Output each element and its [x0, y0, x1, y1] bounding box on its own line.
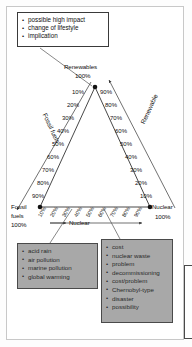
left-tick: 10%	[72, 89, 84, 96]
right-tick: 70%	[110, 115, 122, 122]
bottom-right-value: 100%	[155, 213, 170, 220]
drawback-item-cont: cost/problem	[106, 277, 169, 286]
apex-label: Renewables	[64, 63, 97, 70]
drawback-item: acid rain	[22, 247, 94, 256]
bottom-right-label: Nuclear	[152, 203, 173, 210]
drawback-item: air pollution	[22, 256, 94, 265]
callout-item: change of lifestyle	[22, 24, 104, 32]
apex-value: 100%	[75, 72, 90, 79]
diagram-page: possible high impact change of lifestyle…	[0, 0, 192, 347]
drawback-item-cont: possibility	[106, 303, 169, 312]
right-tick: 80%	[105, 102, 117, 109]
left-tick: 40%	[57, 128, 69, 135]
drawback-item: marine pollution	[22, 264, 94, 273]
bottom-left-label-1: Fossil	[11, 203, 27, 210]
left-tick: 80%	[37, 180, 49, 187]
drawback-item: nuclear waste	[106, 252, 169, 261]
right-tick: 20%	[135, 180, 147, 187]
nuclear-axis-label: Nuclear	[69, 219, 90, 226]
bottom-left-label-2: fuels	[11, 212, 24, 219]
drawback-item: cost	[106, 243, 169, 252]
callout-item: possible high impact	[22, 16, 104, 24]
left-tick: 60%	[47, 154, 59, 161]
partial-box-right-edge	[184, 265, 192, 339]
drawback-item-cont: disaster	[106, 295, 169, 304]
right-tick: 40%	[125, 154, 137, 161]
right-tick: 90%	[100, 89, 112, 96]
drawback-item-cont: problem	[106, 260, 169, 269]
left-tick: 30%	[62, 115, 74, 122]
nuclear-drawbacks-box: cost nuclear waste problem decommissioni…	[101, 239, 173, 323]
bottom-left-value: 100%	[11, 221, 26, 228]
right-tick: 60%	[115, 128, 127, 135]
left-tick: 90%	[32, 193, 44, 200]
drawback-item: global warming	[22, 273, 94, 282]
left-tick: 20%	[67, 102, 79, 109]
drawback-item: Chernobyl-type	[106, 286, 169, 295]
callout-item-cont: implication	[22, 32, 104, 40]
left-tick: 70%	[42, 167, 54, 174]
fossil-fuels-drawbacks-box: acid rain air pollution marine pollution…	[17, 243, 98, 289]
drawback-item: decommissioning	[106, 269, 169, 278]
right-tick: 30%	[130, 167, 142, 174]
right-tick: 10%	[140, 193, 152, 200]
right-tick: 50%	[120, 141, 132, 148]
renewables-callout: possible high impact change of lifestyle…	[17, 12, 109, 47]
left-tick: 50%	[52, 141, 64, 148]
